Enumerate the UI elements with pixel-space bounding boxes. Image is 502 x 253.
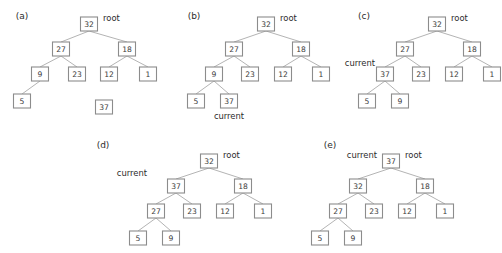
tree-edge xyxy=(234,56,250,67)
tree-node[interactable]: 9 xyxy=(32,67,49,81)
tree-edge xyxy=(156,193,176,204)
tree-node[interactable]: 32 xyxy=(258,17,275,31)
node-value: 23 xyxy=(245,70,255,79)
tree-edge xyxy=(214,56,234,67)
node-value: 27 xyxy=(56,45,66,54)
tree-node[interactable]: 9 xyxy=(206,67,223,81)
node-value: 23 xyxy=(416,70,426,79)
tree-node[interactable]: 18 xyxy=(235,179,252,193)
tree-node[interactable]: 5 xyxy=(312,231,329,245)
tree-node[interactable]: 32 xyxy=(429,17,446,31)
node-value: 27 xyxy=(229,45,239,54)
tree-node[interactable]: 5 xyxy=(359,94,376,108)
tree-node[interactable]: 27 xyxy=(148,204,165,218)
tree-edge xyxy=(209,168,243,179)
annotation-root: root xyxy=(103,13,121,23)
node-value: 32 xyxy=(84,20,94,29)
node-value: 12 xyxy=(449,70,459,79)
node-value: 5 xyxy=(365,97,370,106)
tree-node[interactable]: 5 xyxy=(14,94,31,108)
edge-group xyxy=(196,31,321,94)
tree-edge xyxy=(40,56,61,67)
tree-node[interactable]: 23 xyxy=(69,67,86,81)
node-value: 37 xyxy=(386,157,396,166)
tree-edge xyxy=(89,31,127,42)
tree-node[interactable]: 23 xyxy=(184,204,201,218)
tree-node[interactable]: 37 xyxy=(221,94,238,108)
tree-node[interactable]: 12 xyxy=(101,67,118,81)
tree-edge xyxy=(405,56,421,67)
node-value: 32 xyxy=(353,182,363,191)
tree-node[interactable]: 18 xyxy=(119,42,136,56)
node-value: 23 xyxy=(369,207,379,216)
tree-node[interactable]: 32 xyxy=(201,154,218,168)
tree-node[interactable]: 1 xyxy=(484,67,501,81)
tree-node[interactable]: 37 xyxy=(377,67,394,81)
tree-node[interactable]: 32 xyxy=(350,179,367,193)
node-value: 9 xyxy=(169,234,174,243)
tree-node[interactable]: 9 xyxy=(392,94,409,108)
tree-node[interactable]: 1 xyxy=(140,67,157,81)
tree-edge xyxy=(196,81,214,94)
annotation-current: current xyxy=(347,150,378,160)
panel-a: 322718923121537(a)root xyxy=(14,11,157,114)
tree-edge xyxy=(283,56,301,67)
node-value: 37 xyxy=(380,70,390,79)
tree-node[interactable]: 23 xyxy=(242,67,259,81)
tree-edge xyxy=(127,56,148,67)
tree-edge xyxy=(358,168,391,179)
panel-e: 373218272312159(e)rootcurrent xyxy=(312,140,454,245)
tree-node[interactable]: 37 xyxy=(168,179,185,193)
tree-node[interactable]: 23 xyxy=(413,67,430,81)
tree-edge xyxy=(454,56,472,67)
tree-node[interactable]: 37 xyxy=(96,100,113,114)
tree-node[interactable]: 12 xyxy=(217,204,234,218)
tree-node[interactable]: 18 xyxy=(464,42,481,56)
tree-edge xyxy=(266,31,301,42)
tree-node[interactable]: 27 xyxy=(397,42,414,56)
tree-node[interactable]: 12 xyxy=(275,67,292,81)
tree-node[interactable]: 37 xyxy=(383,154,400,168)
tree-edge xyxy=(176,168,209,179)
annotation-current: current xyxy=(345,58,376,68)
tree-edge xyxy=(385,81,400,94)
node-value: 37 xyxy=(171,182,181,191)
tree-node[interactable]: 18 xyxy=(293,42,310,56)
node-value: 12 xyxy=(220,207,230,216)
tree-node[interactable]: 27 xyxy=(330,204,347,218)
tree-edge xyxy=(225,193,243,204)
tree-node[interactable]: 9 xyxy=(163,231,180,245)
node-value: 9 xyxy=(38,70,43,79)
node-value: 27 xyxy=(400,45,410,54)
node-value: 32 xyxy=(432,20,442,29)
annotation-root: root xyxy=(223,150,241,160)
tree-edge xyxy=(391,168,425,179)
tree-edge xyxy=(367,81,385,94)
tree-node[interactable]: 18 xyxy=(417,179,434,193)
tree-edge xyxy=(61,31,89,42)
panel-d: 323718272312159(d)rootcurrent xyxy=(97,140,272,245)
panel-c: 322718372312159(c)rootcurrent xyxy=(345,11,501,108)
tree-node[interactable]: 27 xyxy=(226,42,243,56)
tree-edge xyxy=(338,218,353,231)
tree-node[interactable]: 5 xyxy=(130,231,147,245)
tree-node[interactable]: 23 xyxy=(366,204,383,218)
tree-node[interactable]: 1 xyxy=(313,67,330,81)
panel-caption: (c) xyxy=(358,11,370,21)
annotation-root: root xyxy=(451,13,469,23)
tree-node[interactable]: 1 xyxy=(437,204,454,218)
tree-node[interactable]: 5 xyxy=(188,94,205,108)
tree-node[interactable]: 9 xyxy=(345,231,362,245)
tree-node[interactable]: 32 xyxy=(81,17,98,31)
node-value: 18 xyxy=(122,45,132,54)
tree-edge xyxy=(301,56,321,67)
tree-edge xyxy=(234,31,266,42)
node-value: 5 xyxy=(318,234,323,243)
node-value: 32 xyxy=(261,20,271,29)
tree-node[interactable]: 27 xyxy=(53,42,70,56)
tree-node[interactable]: 12 xyxy=(399,204,416,218)
tree-node[interactable]: 1 xyxy=(255,204,272,218)
node-value: 5 xyxy=(136,234,141,243)
node-value: 27 xyxy=(333,207,343,216)
tree-node[interactable]: 12 xyxy=(446,67,463,81)
